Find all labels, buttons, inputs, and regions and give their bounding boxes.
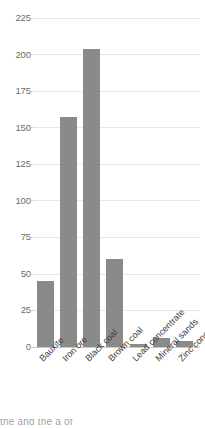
bar-iron-ore[interactable] bbox=[60, 117, 77, 347]
bar-bauxite[interactable] bbox=[37, 281, 54, 347]
y-tick-label: 175 bbox=[3, 86, 31, 96]
y-tick-label: 125 bbox=[3, 159, 31, 169]
y-tick-label: 150 bbox=[3, 123, 31, 133]
y-tick-label: 25 bbox=[3, 305, 31, 315]
bars-layer bbox=[33, 18, 200, 347]
y-tick-label: 75 bbox=[3, 232, 31, 242]
y-tick-label: 200 bbox=[3, 50, 31, 60]
bar-black-coal[interactable] bbox=[83, 49, 100, 347]
cut-off-text-row: the and the a of bbox=[0, 419, 205, 428]
y-tick-label: 225 bbox=[3, 13, 31, 23]
cut-off-text: the and the a of bbox=[0, 419, 205, 428]
y-axis: 225 200 175 150 125 100 75 50 25 0 bbox=[0, 0, 31, 428]
bar-chart: 225 200 175 150 125 100 75 50 25 0 bbox=[0, 0, 205, 428]
y-tick-label: 100 bbox=[3, 196, 31, 206]
y-tick-label: 50 bbox=[3, 269, 31, 279]
y-tick-label: 0 bbox=[3, 342, 31, 352]
